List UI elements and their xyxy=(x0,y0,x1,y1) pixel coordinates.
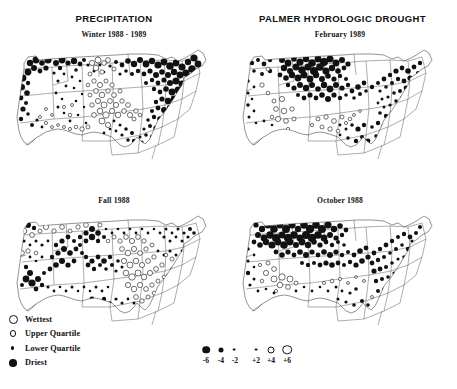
small-filled-circle-icon xyxy=(9,346,25,349)
map-panel-palmer-february: February 1989 xyxy=(232,30,448,190)
scale-label-plus6: +6 xyxy=(283,356,291,365)
scale-symbol-plus4 xyxy=(268,346,275,353)
scale-symbol-minus2 xyxy=(233,348,236,351)
column-title-palmer: PALMER HYDROLOGIC DROUGHT xyxy=(228,13,457,24)
panel-subtitle-palmer-february: February 1989 xyxy=(232,30,448,39)
legend-label-lower-quartile: Lower Quartile xyxy=(25,344,81,353)
scale-symbol-minus6 xyxy=(202,346,210,354)
legend-item-wettest: Wettest xyxy=(9,313,81,325)
map-panel-precip-winter: Winter 1988 - 1989 xyxy=(6,30,222,190)
map-canvas-palmer-february xyxy=(232,41,448,201)
scale-label-plus2: +2 xyxy=(252,356,260,365)
legend-palmer-scale: -6 -4 -2 +2 +4 +6 xyxy=(200,343,330,367)
legend-label-upper-quartile: Upper Quartile xyxy=(25,329,80,338)
legend-scale-symbols xyxy=(200,343,330,356)
legend-label-driest: Driest xyxy=(25,358,47,367)
large-filled-circle-icon xyxy=(9,359,25,367)
scale-label-minus2: -2 xyxy=(232,356,238,365)
legend-label-wettest: Wettest xyxy=(25,315,52,324)
small-open-circle-icon xyxy=(9,330,25,336)
panel-subtitle-precip-winter: Winter 1988 - 1989 xyxy=(6,30,222,39)
scale-label-minus4: -4 xyxy=(218,356,224,365)
panel-subtitle-precip-fall: Fall 1988 xyxy=(6,196,222,205)
scale-label-plus4: +4 xyxy=(267,356,275,365)
legend-item-upper-quartile: Upper Quartile xyxy=(9,328,81,340)
column-title-precipitation: PRECIPITATION xyxy=(0,13,228,24)
legend-item-lower-quartile: Lower Quartile xyxy=(9,342,81,354)
scale-symbol-plus6 xyxy=(282,345,292,355)
map-canvas-precip-winter xyxy=(6,41,222,201)
map-panel-palmer-october: October 1988 xyxy=(232,196,448,356)
scale-symbol-plus2 xyxy=(255,348,258,351)
legend-scale-labels: -6 -4 -2 +2 +4 +6 xyxy=(200,356,330,367)
legend-precipitation-classes: Wettest Upper Quartile Lower Quartile Dr… xyxy=(9,313,81,369)
figure-root: PRECIPITATION PALMER HYDROLOGIC DROUGHT … xyxy=(0,0,457,389)
legend-item-driest: Driest xyxy=(9,357,81,369)
large-open-circle-icon xyxy=(9,315,25,324)
scale-symbol-minus4 xyxy=(219,347,224,352)
scale-label-minus6: -6 xyxy=(203,356,209,365)
panel-subtitle-palmer-october: October 1988 xyxy=(232,196,448,205)
